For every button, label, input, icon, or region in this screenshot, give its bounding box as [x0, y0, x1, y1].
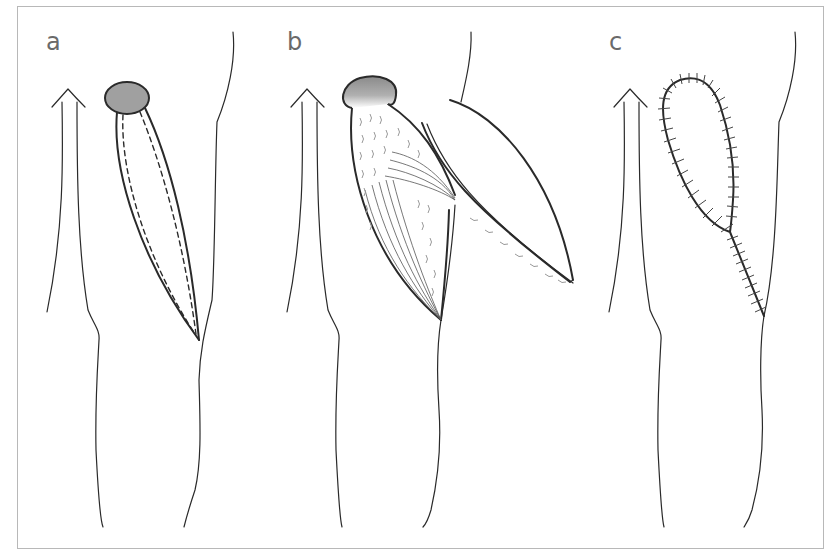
flap-edge-left-a — [116, 112, 199, 340]
defect-b — [343, 76, 396, 108]
arrow-icon-b — [287, 89, 342, 527]
transposed-flap-outer — [450, 100, 573, 280]
body-contour-c — [744, 32, 796, 527]
flap-tip — [570, 280, 573, 282]
arrow-icon-a — [47, 89, 103, 527]
suture-ticks — [658, 73, 766, 312]
illustration — [0, 0, 833, 560]
flap-edge-right-a — [145, 108, 199, 340]
body-contour-b-lower — [423, 320, 441, 527]
transposed-flap-texture — [470, 218, 566, 283]
panel-a — [47, 32, 234, 527]
body-contour-b-upper — [461, 32, 471, 102]
incision-right-a — [140, 112, 196, 334]
panel-c — [609, 32, 796, 527]
panel-b — [287, 32, 573, 527]
suture-line — [663, 78, 764, 316]
arrow-icon-c — [609, 89, 664, 527]
defect-a — [105, 82, 149, 114]
incision-left-a — [123, 115, 195, 334]
